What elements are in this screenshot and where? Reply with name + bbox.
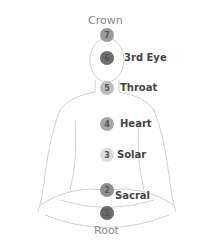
chakra-3-solar: 3 [100,148,114,162]
chakra-4-heart: 4 [100,117,114,131]
chakra-2-sacral: 2 [100,183,114,197]
chakra-5-throat: 5 [100,81,114,95]
root-label: Root [94,224,119,237]
crown-label: Crown [88,14,123,27]
chakra-label-sacral: Sacral [115,190,150,201]
chakra-label-third-eye: 3rd Eye [124,52,167,63]
chakra-label-throat: Throat [120,82,157,93]
chakra-7-crown: 7 [100,28,114,42]
chakra-label-heart: Heart [120,118,152,129]
chakra-label-solar: Solar [117,149,146,160]
chakra-1-root: 1 [100,206,114,220]
chakra-6-third-eye: 6 [100,51,114,65]
